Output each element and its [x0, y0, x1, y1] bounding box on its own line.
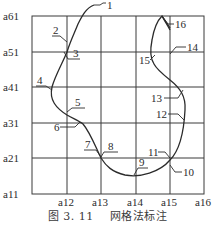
callout-5: 5	[75, 96, 81, 108]
row-label-a31: a31	[3, 117, 19, 129]
callout-4: 4	[37, 74, 43, 86]
callout-8: 8	[108, 140, 114, 152]
row-label-a21: a21	[3, 152, 19, 164]
boundary-curve	[51, 5, 185, 176]
leader-10	[170, 165, 182, 172]
callout-7: 7	[85, 138, 91, 150]
callout-3: 3	[73, 47, 79, 59]
leader-8	[101, 152, 118, 157]
row-label-a51: a51	[3, 46, 19, 58]
callout-14: 14	[187, 41, 199, 53]
callout-11: 11	[148, 146, 159, 158]
callout-2: 2	[53, 24, 59, 36]
callout-13: 13	[151, 92, 163, 104]
row-labels: a61 a51 a41 a31 a21 a11	[3, 10, 19, 200]
leader-11	[158, 152, 170, 158]
leader-1	[94, 3, 106, 5]
grid-diagram: a61 a51 a41 a31 a21 a11 a12 a13 a14 a15 …	[0, 0, 215, 228]
leader-7	[84, 150, 101, 157]
callout-labels: 1 2 3 4 5 6 7 8 9 10 11 12 13 14 15 16	[37, 0, 199, 178]
leader-5	[67, 108, 85, 112]
leader-2	[52, 36, 67, 42]
row-label-a61: a61	[3, 10, 19, 22]
callout-9: 9	[139, 156, 145, 168]
grid-lines	[32, 16, 204, 194]
leader-14	[170, 47, 186, 54]
row-label-a41: a41	[3, 81, 19, 93]
callout-10: 10	[183, 166, 195, 178]
caption-number: 图 3. 11	[48, 210, 94, 223]
callout-16: 16	[175, 18, 187, 30]
row-label-a11: a11	[3, 188, 18, 200]
callout-12: 12	[156, 108, 167, 120]
callout-6: 6	[54, 121, 60, 133]
callout-15: 15	[139, 54, 151, 66]
callout-1: 1	[107, 0, 113, 11]
caption-title: 网格法标注	[110, 210, 168, 223]
figure-caption: 图 3. 11 网格法标注	[0, 207, 215, 223]
grid-border	[32, 16, 204, 194]
